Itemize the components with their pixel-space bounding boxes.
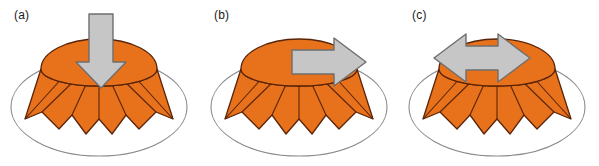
figure-panel-a: (a) [0,0,199,166]
figure-panel-set: (a) (b) [0,0,599,166]
panel-b-illustration [200,0,399,166]
panel-a-illustration [0,0,199,166]
panel-c-illustration [398,0,597,166]
figure-panel-b: (b) [200,0,399,166]
figure-panel-c: (c) [398,0,597,166]
